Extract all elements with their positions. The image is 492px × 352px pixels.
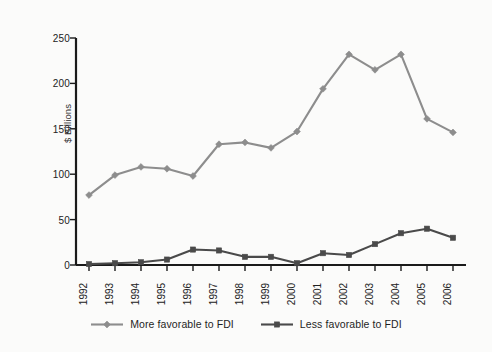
- legend-item-less-favorable[interactable]: Less favorable to FDI: [260, 318, 402, 330]
- data-point-marker: [424, 226, 429, 231]
- data-point-marker: [86, 261, 91, 266]
- data-point-marker: [372, 242, 377, 247]
- data-point-marker: [346, 252, 351, 257]
- data-point-marker: [138, 260, 143, 265]
- data-point-marker: [294, 261, 299, 266]
- data-point-marker: [216, 248, 221, 253]
- data-point-marker: [112, 261, 117, 266]
- chart-legend: More favorable to FDILess favorable to F…: [0, 318, 492, 330]
- series-more-favorable: [86, 51, 457, 199]
- data-point-marker: [450, 235, 455, 240]
- data-point-marker: [242, 139, 249, 146]
- data-point-marker: [242, 254, 247, 259]
- data-series-layer: [86, 51, 457, 267]
- series-line: [89, 54, 453, 195]
- legend-diamond-marker-icon: [90, 319, 124, 330]
- legend-label: More favorable to FDI: [130, 318, 234, 330]
- data-point-marker: [268, 254, 273, 259]
- fdi-policy-changes-line-chart: $ Billions 050100150200250 1992199319941…: [0, 0, 492, 352]
- data-point-marker: [138, 164, 145, 171]
- series-less-favorable: [86, 226, 455, 267]
- data-point-marker: [164, 165, 171, 172]
- legend-item-more-favorable[interactable]: More favorable to FDI: [90, 318, 234, 330]
- legend-square-marker-icon: [260, 319, 294, 330]
- data-point-marker: [398, 231, 403, 236]
- legend-label: Less favorable to FDI: [300, 318, 402, 330]
- data-point-marker: [164, 257, 169, 262]
- data-point-marker: [320, 251, 325, 256]
- data-point-marker: [190, 247, 195, 252]
- plot-area: [0, 0, 492, 352]
